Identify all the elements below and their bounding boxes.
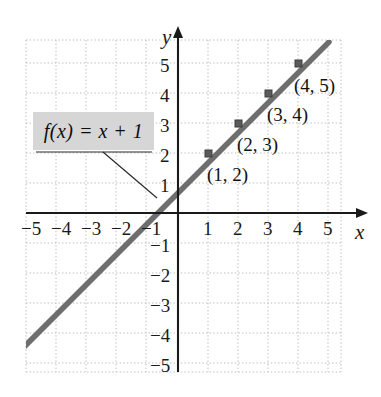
y-tick-label: 5 bbox=[160, 56, 170, 75]
point-label: (4, 5) bbox=[294, 76, 335, 95]
y-tick-label: 3 bbox=[160, 116, 170, 135]
point-marker bbox=[235, 120, 242, 127]
x-tick-label: 2 bbox=[233, 219, 243, 238]
x-tick-label: −3 bbox=[81, 219, 101, 238]
function-line bbox=[23, 42, 329, 348]
x-axis-arrowhead bbox=[356, 208, 368, 218]
y-tick-label: −3 bbox=[150, 296, 170, 315]
x-axis-label: x bbox=[355, 222, 364, 243]
point-marker bbox=[205, 150, 212, 157]
function-graph-figure: f(x) = x + 1 y x −5 −4 −3 −2 −1 1 2 3 4 … bbox=[0, 0, 381, 397]
x-tick-label: 1 bbox=[203, 219, 213, 238]
formula-callout: f(x) = x + 1 bbox=[33, 112, 154, 150]
point-label: (2, 3) bbox=[237, 135, 278, 154]
y-tick-label: 1 bbox=[160, 176, 170, 195]
y-tick-label: 4 bbox=[160, 86, 170, 105]
formula-label: f(x) = x + 1 bbox=[44, 120, 144, 143]
x-tick-label: 5 bbox=[323, 219, 333, 238]
x-tick-label: −4 bbox=[51, 219, 71, 238]
x-tick-label: −5 bbox=[21, 219, 41, 238]
x-tick-label: 4 bbox=[293, 219, 303, 238]
x-tick-label: 3 bbox=[263, 219, 273, 238]
y-tick-label: 2 bbox=[160, 146, 170, 165]
point-label: (3, 4) bbox=[267, 105, 308, 124]
y-tick-label: −5 bbox=[150, 356, 170, 375]
point-marker bbox=[295, 60, 302, 67]
y-tick-label: −1 bbox=[150, 236, 170, 255]
point-label: (1, 2) bbox=[207, 165, 248, 184]
graph-canvas bbox=[0, 0, 381, 397]
y-axis-arrowhead bbox=[173, 26, 183, 38]
point-marker bbox=[265, 90, 272, 97]
x-tick-label: −2 bbox=[111, 219, 131, 238]
y-tick-label: −4 bbox=[150, 326, 170, 345]
y-tick-label: −2 bbox=[150, 266, 170, 285]
formula-leader-line bbox=[36, 152, 157, 198]
y-axis-label: y bbox=[162, 27, 171, 48]
